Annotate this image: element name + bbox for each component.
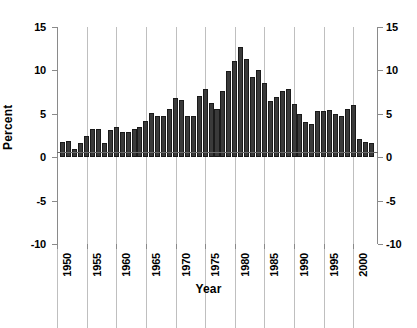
x-tick-label-1975: 1975	[210, 253, 221, 277]
bar	[327, 110, 332, 157]
bar	[232, 61, 237, 157]
x-tick-1950	[57, 244, 58, 249]
x-tick-1975	[205, 244, 206, 249]
bar	[244, 59, 249, 157]
y-tick-label-right-15: 15	[386, 22, 398, 33]
bar	[120, 132, 125, 157]
x-tick-1995	[324, 244, 325, 249]
bar	[132, 129, 137, 157]
bar	[214, 109, 219, 158]
x-tick-1960	[116, 244, 117, 249]
bar	[149, 113, 154, 157]
bar	[84, 136, 89, 158]
bar	[238, 47, 243, 157]
y-tick-label-left-0: 0	[40, 152, 46, 163]
x-axis-title: Year	[0, 283, 417, 295]
x-tick-1980	[235, 244, 236, 249]
x-tick-2000	[353, 244, 354, 249]
bar	[274, 97, 279, 157]
y-axis-right-line	[377, 27, 378, 244]
y-tick-right--10	[378, 244, 383, 245]
bar	[357, 139, 362, 157]
y-tick-right-10	[378, 70, 383, 71]
y-tick-right-15	[378, 27, 383, 28]
bar	[315, 111, 320, 157]
bar	[126, 132, 131, 157]
y-tick-label-left--10: -10	[31, 239, 46, 250]
bar	[369, 143, 374, 157]
bar	[90, 129, 95, 157]
bar	[78, 143, 83, 157]
y-tick-label-right-0: 0	[386, 152, 392, 163]
bar	[66, 141, 71, 157]
bar	[209, 103, 214, 158]
bar	[203, 89, 208, 157]
bar	[220, 91, 225, 157]
bar	[333, 114, 338, 157]
x-tick-1990	[294, 244, 295, 249]
y-tick-left-0	[52, 157, 57, 158]
x-tick-label-1965: 1965	[151, 253, 162, 277]
x-tick-label-2000: 2000	[358, 253, 369, 277]
bar	[280, 91, 285, 157]
bar	[161, 116, 166, 158]
y-tick-label-right--10: -10	[386, 239, 401, 250]
bar	[173, 98, 178, 157]
y-tick-left-5	[52, 114, 57, 115]
y-tick-label-right-10: 10	[386, 65, 398, 76]
zero-baseline	[57, 152, 378, 153]
x-tick-label-1970: 1970	[181, 253, 192, 277]
x-tick-label-1955: 1955	[92, 253, 103, 277]
y-tick-label-left-10: 10	[34, 65, 46, 76]
y-tick-label-left-15: 15	[34, 22, 46, 33]
x-tick-label-1995: 1995	[329, 253, 340, 277]
bar	[321, 111, 326, 157]
y-tick-label-right-5: 5	[386, 109, 392, 120]
y-tick-left--5	[52, 201, 57, 202]
x-tick-1985	[264, 244, 265, 249]
bar	[72, 149, 77, 157]
y-tick-left-10	[52, 70, 57, 71]
chart-plot-area	[57, 27, 377, 244]
x-tick-label-1950: 1950	[62, 253, 73, 277]
y-tick-label-left--5: -5	[37, 196, 46, 207]
bar	[256, 70, 261, 158]
bar	[179, 100, 184, 157]
y-axis-title: Percent	[2, 105, 14, 150]
bar	[351, 105, 356, 157]
x-tick-label-1980: 1980	[240, 253, 251, 277]
y-tick-label-right--5: -5	[386, 196, 395, 207]
x-tick-label-1960: 1960	[121, 253, 132, 277]
bar	[262, 83, 267, 157]
bar	[167, 109, 172, 157]
bar	[191, 116, 196, 158]
bar	[108, 130, 113, 157]
bar	[60, 142, 65, 158]
y-tick-right-5	[378, 114, 383, 115]
x-tick-label-1990: 1990	[299, 253, 310, 277]
bar	[155, 116, 160, 158]
bar	[292, 104, 297, 157]
bar	[197, 96, 202, 158]
bar	[226, 71, 231, 157]
bar	[345, 109, 350, 157]
bar	[339, 116, 344, 158]
y-axis-left-line	[57, 27, 58, 244]
bar	[250, 77, 255, 157]
y-tick-right-0	[378, 157, 383, 158]
bar	[286, 89, 291, 157]
x-tick-1970	[176, 244, 177, 249]
y-tick-right--5	[378, 201, 383, 202]
bar	[297, 114, 302, 157]
x-tick-1955	[87, 244, 88, 249]
bar	[102, 143, 107, 157]
bar	[363, 142, 368, 158]
bar	[96, 129, 101, 157]
y-tick-left-15	[52, 27, 57, 28]
x-tick-label-1985: 1985	[269, 253, 280, 277]
x-tick-1965	[146, 244, 147, 249]
bar	[268, 101, 273, 157]
y-tick-label-left-5: 5	[40, 109, 46, 120]
